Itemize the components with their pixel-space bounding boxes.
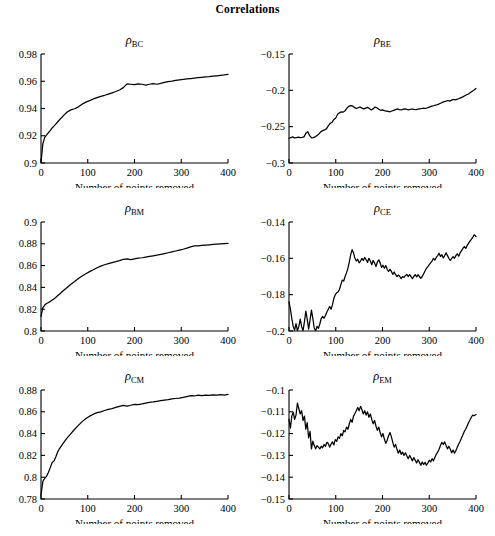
data-series-line	[41, 74, 228, 162]
x-tick-label: 200	[375, 503, 391, 514]
x-tick-label: 400	[220, 335, 236, 346]
y-tick-label: −0.14	[261, 472, 286, 483]
x-tick-label: 0	[38, 503, 43, 514]
y-tick-label: 0.92	[19, 130, 37, 141]
y-tick-label: −0.3	[266, 158, 285, 169]
panel-title: ρEM	[372, 369, 392, 385]
x-tick-label: 0	[286, 503, 291, 514]
x-tick-label: 400	[220, 503, 236, 514]
panel-title: ρCE	[373, 201, 391, 217]
panel-rho-bm: ρBM0.80.820.840.860.880.90100200300400Nu…	[0, 196, 247, 356]
x-tick-label: 200	[127, 335, 143, 346]
axis-spines	[41, 222, 228, 331]
panel-rho-em: ρEM−0.15−0.14−0.13−0.12−0.11−0.101002003…	[248, 364, 495, 524]
y-tick-label: 0.9	[24, 158, 37, 169]
y-tick-label: 0.8	[24, 326, 37, 337]
x-tick-label: 200	[375, 335, 391, 346]
y-tick-label: 0.88	[19, 238, 37, 249]
x-tick-label: 200	[375, 167, 391, 178]
panel-title: ρBM	[124, 201, 145, 217]
x-tick-label: 0	[286, 167, 291, 178]
y-tick-label: −0.11	[261, 406, 285, 417]
y-tick-label: 0.86	[19, 260, 37, 271]
x-tick-label: 100	[328, 335, 344, 346]
x-axis-label: Number of points removed	[75, 517, 194, 524]
x-tick-label: 300	[173, 503, 189, 514]
x-tick-label: 100	[80, 167, 96, 178]
axis-spines	[289, 222, 476, 331]
panel-title: ρBC	[125, 33, 144, 49]
y-tick-label: 0.98	[19, 49, 37, 60]
y-tick-label: 0.84	[19, 428, 38, 439]
y-tick-label: −0.2	[266, 85, 285, 96]
y-tick-label: 0.8	[24, 472, 37, 483]
x-tick-label: 300	[421, 167, 437, 178]
x-tick-label: 0	[286, 335, 291, 346]
y-tick-label: 0.78	[19, 494, 37, 505]
panel-rho-cm: ρCM0.780.80.820.840.860.880100200300400N…	[0, 364, 247, 524]
x-axis-label: Number of points removed	[323, 517, 442, 524]
data-series-line	[289, 403, 476, 465]
y-tick-label: 0.82	[19, 450, 37, 461]
data-series-line	[41, 394, 228, 494]
x-tick-label: 300	[421, 335, 437, 346]
x-axis-label: Number of points removed	[323, 181, 442, 188]
x-axis-label: Number of points removed	[323, 349, 442, 356]
x-tick-label: 300	[173, 167, 189, 178]
y-tick-label: 0.9	[24, 217, 37, 228]
y-tick-label: 0.86	[19, 406, 37, 417]
panel-rho-ce: ρCE−0.2−0.18−0.16−0.140100200300400Numbe…	[248, 196, 495, 356]
y-tick-label: 0.96	[19, 76, 37, 87]
y-tick-label: −0.15	[261, 494, 285, 505]
y-tick-label: −0.13	[261, 450, 285, 461]
panel-rho-bc: ρBC0.90.920.940.960.980100200300400Numbe…	[0, 28, 247, 188]
y-tick-label: −0.16	[261, 253, 285, 264]
y-tick-label: 0.94	[19, 103, 38, 114]
x-tick-label: 300	[173, 335, 189, 346]
x-tick-label: 0	[38, 335, 43, 346]
x-tick-label: 0	[38, 167, 43, 178]
x-tick-label: 100	[328, 503, 344, 514]
x-tick-label: 100	[328, 167, 344, 178]
axis-spines	[289, 54, 476, 163]
y-tick-label: −0.14	[261, 217, 286, 228]
x-tick-label: 300	[421, 503, 437, 514]
x-axis-label: Number of points removed	[75, 349, 194, 356]
x-tick-label: 200	[127, 167, 143, 178]
panel-rho-be: ρBE−0.3−0.25−0.2−0.150100200300400Number…	[248, 28, 495, 188]
x-tick-label: 100	[80, 335, 96, 346]
y-tick-label: −0.12	[261, 428, 285, 439]
y-tick-label: −0.18	[261, 289, 285, 300]
y-tick-label: 0.88	[19, 385, 37, 396]
x-tick-label: 400	[220, 167, 236, 178]
y-tick-label: −0.25	[261, 121, 285, 132]
data-series-line	[289, 89, 476, 139]
y-tick-label: −0.1	[266, 385, 285, 396]
x-tick-label: 100	[80, 503, 96, 514]
axis-spines	[41, 390, 228, 499]
x-tick-label: 400	[468, 335, 484, 346]
data-series-line	[289, 235, 476, 331]
x-axis-label: Number of points removed	[75, 181, 194, 188]
x-tick-label: 200	[127, 503, 143, 514]
x-tick-label: 400	[468, 503, 484, 514]
correlations-figure: Correlations ρBC0.90.920.940.960.9801002…	[0, 0, 495, 536]
axis-spines	[289, 390, 476, 499]
y-tick-label: 0.82	[19, 304, 37, 315]
y-tick-label: 0.84	[19, 282, 38, 293]
data-series-line	[41, 243, 228, 316]
figure-title: Correlations	[0, 3, 495, 15]
x-tick-label: 400	[468, 167, 484, 178]
y-tick-label: −0.2	[266, 326, 285, 337]
axis-spines	[41, 54, 228, 163]
panel-title: ρCM	[124, 369, 145, 385]
y-tick-label: −0.15	[261, 49, 285, 60]
panel-title: ρBE	[373, 33, 391, 49]
